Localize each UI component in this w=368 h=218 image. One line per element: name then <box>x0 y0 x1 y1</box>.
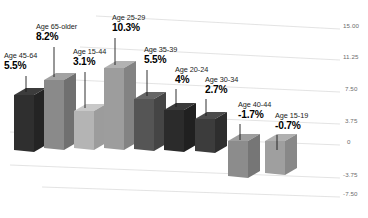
bar-chart: 15.00 11.25 7.50 3.75 0 -3.75 -7.50 Age … <box>0 0 368 218</box>
annotation-category: Age 25-29 <box>112 14 145 22</box>
gridline-11.25 <box>80 47 340 60</box>
annotation-value: -1.7% <box>238 109 271 120</box>
bar-age-35-39[interactable] <box>134 92 166 151</box>
tick-label--7.50: -7.50 <box>343 190 358 197</box>
annotation-age-30-34: Age 30-34 2.7% <box>205 76 238 95</box>
bar-side-face <box>248 134 260 178</box>
bar-age-25-29[interactable] <box>104 61 136 150</box>
bar-age-20-24[interactable] <box>164 103 196 152</box>
annotation-category: Age 30-34 <box>205 76 238 84</box>
bar-front-face <box>44 80 64 150</box>
annotation-category: Age 45-64 <box>4 52 37 60</box>
gridline--7.50 <box>42 187 340 197</box>
annotation-value: 2.7% <box>205 84 238 95</box>
tick-label-0: 0 <box>347 138 351 145</box>
annotation-value: -0.7% <box>275 120 308 131</box>
annotation-value: 3.1% <box>73 56 106 67</box>
bar-age-15-44[interactable] <box>74 104 106 150</box>
annotation-age-35-39: Age 35-39 5.5% <box>144 46 177 65</box>
bar-front-face <box>74 111 94 150</box>
annotation-category: Age 35-39 <box>144 46 177 54</box>
tick-label--3.75: -3.75 <box>343 171 358 178</box>
bar-age-40-44[interactable] <box>228 134 260 178</box>
annotation-age-65-older: Age 65-older 8.2% <box>36 23 77 42</box>
annotation-category: Age 15-44 <box>73 48 106 56</box>
annotation-age-15-44: Age 15-44 3.1% <box>73 48 106 67</box>
annotation-age-20-24: Age 20-24 4% <box>175 66 208 85</box>
bar-front-face <box>164 110 184 152</box>
bar-age-65-older[interactable] <box>44 73 76 150</box>
annotation-value: 8.2% <box>36 31 77 42</box>
bar-side-face <box>184 103 196 152</box>
bar-age-15-19[interactable] <box>265 134 297 175</box>
annotation-value: 5.5% <box>4 60 37 71</box>
bar-front-face <box>134 99 154 151</box>
tick-label-11.25: 11.25 <box>343 53 359 60</box>
annotation-age-45-64: Age 45-64 5.5% <box>4 52 37 71</box>
bar-side-face <box>215 112 227 153</box>
tick-label-15.00: 15.00 <box>343 22 359 29</box>
annotation-age-25-29: Age 25-29 10.3% <box>112 14 145 33</box>
bar-front-face <box>14 95 34 152</box>
annotation-value: 4% <box>175 74 208 85</box>
bar-age-30-34[interactable] <box>195 112 227 153</box>
bar-age-45-64[interactable] <box>14 88 46 152</box>
tick-label-7.50: 7.50 <box>345 85 357 92</box>
bar-front-face <box>228 141 248 178</box>
annotation-category: Age 20-24 <box>175 66 208 74</box>
bar-side-face <box>285 134 297 175</box>
annotation-category: Age 40-44 <box>238 101 271 109</box>
annotation-value: 10.3% <box>112 22 145 33</box>
annotation-age-40-44: Age 40-44 -1.7% <box>238 101 271 120</box>
tick-label-3.75: 3.75 <box>345 117 357 124</box>
bar-front-face <box>104 68 124 150</box>
annotation-value: 5.5% <box>144 54 177 65</box>
bar-front-face <box>265 141 285 175</box>
bar-front-face <box>195 119 215 153</box>
annotation-age-15-19: Age 15-19 -0.7% <box>275 112 308 131</box>
annotation-category: Age 15-19 <box>275 112 308 120</box>
annotation-category: Age 65-older <box>36 23 77 31</box>
